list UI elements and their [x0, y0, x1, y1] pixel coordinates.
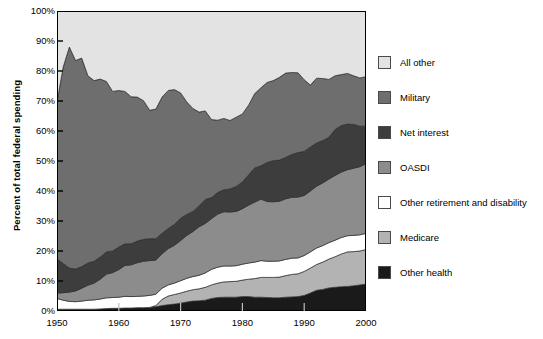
legend-label: Other retirement and disability — [400, 197, 527, 208]
x-tick-label: 2000 — [341, 318, 391, 328]
legend-item[interactable]: Net interest — [378, 115, 543, 150]
plot-svg — [57, 11, 366, 311]
legend-item[interactable]: Military — [378, 80, 543, 115]
legend-label: Net interest — [400, 127, 449, 138]
legend-label: All other — [400, 57, 435, 68]
chart-legend: All otherMilitaryNet interestOASDIOther … — [378, 45, 543, 290]
x-tick-label: 1990 — [279, 318, 329, 328]
legend-swatch-icon — [378, 91, 391, 104]
stacked-area-chart-figure: Percent of total federal spending 0%10%2… — [0, 0, 543, 339]
legend-swatch-icon — [378, 56, 391, 69]
legend-swatch-icon — [378, 196, 391, 209]
x-tick-label: 1960 — [94, 318, 144, 328]
legend-swatch-icon — [378, 231, 391, 244]
legend-swatch-icon — [378, 126, 391, 139]
x-tick-label: 1950 — [32, 318, 82, 328]
plot-area — [57, 11, 366, 311]
legend-item[interactable]: All other — [378, 45, 543, 80]
legend-label: Other health — [400, 267, 452, 278]
legend-label: Military — [400, 92, 430, 103]
legend-item[interactable]: Other retirement and disability — [378, 185, 543, 220]
x-tick-label: 1970 — [156, 318, 206, 328]
legend-item[interactable]: Other health — [378, 255, 543, 290]
legend-label: Medicare — [400, 232, 439, 243]
legend-swatch-icon — [378, 266, 391, 279]
legend-swatch-icon — [378, 161, 391, 174]
legend-item[interactable]: OASDI — [378, 150, 543, 185]
legend-label: OASDI — [400, 162, 430, 173]
x-tick-label: 1980 — [217, 318, 267, 328]
legend-item[interactable]: Medicare — [378, 220, 543, 255]
